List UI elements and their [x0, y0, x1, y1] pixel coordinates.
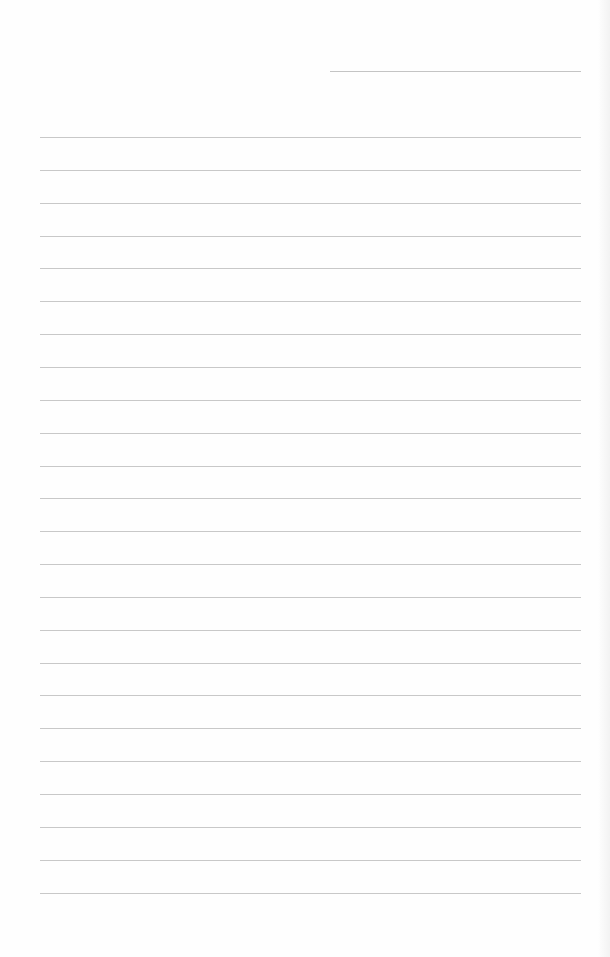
- ruled-line: [40, 893, 581, 894]
- ruled-line: [40, 597, 581, 598]
- ruled-line: [40, 663, 581, 664]
- ruled-line: [40, 433, 581, 434]
- ruled-line: [40, 564, 581, 565]
- ruled-line: [40, 301, 581, 302]
- ruled-line: [40, 695, 581, 696]
- ruled-line: [40, 761, 581, 762]
- ruled-line: [40, 236, 581, 237]
- header-date-line: [330, 71, 581, 72]
- page-edge-shadow: [598, 0, 610, 957]
- ruled-line: [40, 630, 581, 631]
- ruled-line: [40, 531, 581, 532]
- ruled-line: [40, 203, 581, 204]
- ruled-line: [40, 170, 581, 171]
- ruled-line: [40, 400, 581, 401]
- ruled-line: [40, 794, 581, 795]
- ruled-line: [40, 860, 581, 861]
- ruled-line: [40, 367, 581, 368]
- ruled-line: [40, 827, 581, 828]
- ruled-line: [40, 268, 581, 269]
- ruled-line: [40, 498, 581, 499]
- ruled-line: [40, 728, 581, 729]
- ruled-line: [40, 466, 581, 467]
- ruled-line: [40, 137, 581, 138]
- lined-paper-page: [0, 0, 610, 957]
- ruled-line: [40, 334, 581, 335]
